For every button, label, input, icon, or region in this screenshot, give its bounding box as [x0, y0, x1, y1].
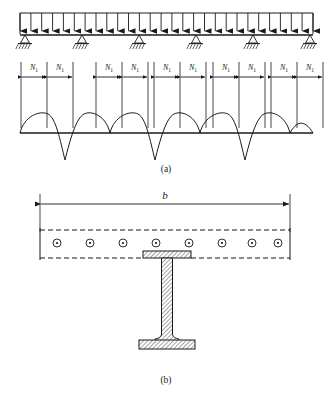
- support: [187, 35, 203, 49]
- rebar-bar: [53, 239, 61, 247]
- force-label: N1: [55, 63, 64, 73]
- force-label: N1: [29, 63, 38, 73]
- force-label-group: N1 N1: [213, 62, 265, 128]
- rebar-bar: [185, 239, 193, 247]
- panel-a: N1 N1 N1 N1: [16, 13, 323, 175]
- moment-curve: [20, 113, 313, 160]
- force-label: N1: [279, 63, 288, 73]
- support: [244, 35, 260, 49]
- force-label: N1: [247, 63, 256, 73]
- engineering-figure: N1 N1 N1 N1: [0, 0, 333, 395]
- load-arrows: [20, 13, 313, 31]
- panel-a-caption: (a): [161, 164, 172, 175]
- force-label: N1: [188, 63, 197, 73]
- force-label: N1: [305, 63, 314, 73]
- i-beam-section: [139, 251, 195, 349]
- figure-svg: N1 N1 N1 N1: [0, 0, 333, 395]
- rebar-bar: [218, 239, 226, 247]
- support: [301, 35, 317, 49]
- support: [130, 35, 146, 49]
- force-label-groups: N1 N1 N1 N1: [21, 62, 323, 128]
- panel-b: b: [40, 189, 290, 386]
- i-beam-bottom-flange: [139, 340, 195, 349]
- force-label: N1: [162, 63, 171, 73]
- force-label-group: N1 N1: [154, 62, 206, 128]
- force-label: N1: [104, 63, 113, 73]
- panel-b-caption: (b): [160, 375, 171, 386]
- i-beam-web: [155, 258, 179, 341]
- force-label-group: N1 N1: [96, 62, 148, 128]
- rebar-bar: [119, 239, 127, 247]
- force-label-group: N1 N1: [271, 62, 323, 128]
- width-dimension: b: [40, 189, 290, 232]
- rebar-bar: [152, 239, 160, 247]
- support: [73, 35, 89, 49]
- supports: [16, 35, 317, 49]
- support: [16, 35, 32, 49]
- rebar-row: [53, 239, 282, 247]
- force-label: N1: [130, 63, 139, 73]
- bending-moment-diagram: [20, 113, 313, 160]
- force-label: N1: [221, 63, 230, 73]
- rebar-bar: [248, 239, 256, 247]
- i-beam-top-flange: [143, 251, 191, 258]
- rebar-bar: [86, 239, 94, 247]
- distributed-load: [20, 13, 313, 34]
- dimension-label: b: [162, 189, 168, 201]
- rebar-bar: [274, 239, 282, 247]
